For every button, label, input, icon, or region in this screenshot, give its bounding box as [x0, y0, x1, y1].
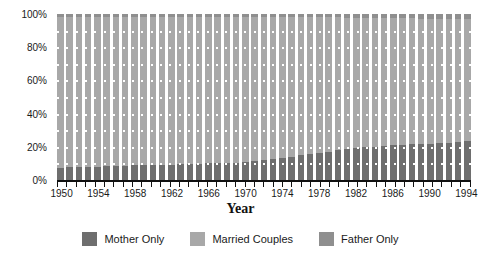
bar-column [94, 14, 101, 180]
bar-column [224, 14, 231, 180]
bar-segment [464, 19, 471, 141]
x-axis-tick-label: 1978 [308, 188, 330, 199]
legend-item[interactable]: Father Only [319, 232, 398, 246]
bar-segment [233, 17, 240, 162]
bar-segment [446, 143, 453, 180]
x-axis-tick [245, 182, 246, 187]
y-axis-tick-label: 40% [27, 108, 47, 119]
bar-segment [464, 141, 471, 180]
x-axis-title: Year [0, 201, 481, 217]
plot-area [57, 14, 471, 180]
bar-segment [390, 145, 397, 180]
bar-segment [316, 17, 323, 152]
x-axis-tick [385, 182, 386, 187]
bar-segment [224, 163, 231, 180]
x-axis-tick [432, 182, 433, 187]
x-axis-tick [460, 182, 461, 187]
legend-item[interactable]: Mother Only [82, 232, 164, 246]
x-axis-tick-label: 1974 [271, 188, 293, 199]
bar-column [372, 14, 379, 180]
bar-column [390, 14, 397, 180]
bar-segment [205, 17, 212, 163]
y-axis: 0%20%40%60%80%100% [0, 14, 52, 180]
x-axis-tick [198, 182, 199, 187]
x-axis-tick-label: 1994 [455, 188, 477, 199]
x-axis-tick [282, 182, 283, 187]
bar-segment [418, 144, 425, 180]
x-axis-tick [170, 182, 171, 187]
legend-label: Mother Only [104, 233, 164, 245]
bar-segment [205, 163, 212, 180]
bar-segment [251, 161, 258, 180]
bar-column [66, 14, 73, 180]
bar-segment [103, 166, 110, 180]
x-axis-tick [366, 182, 367, 187]
bar-column [196, 14, 203, 180]
bar-column [307, 14, 314, 180]
bar-segment [436, 19, 443, 144]
bar-segment [344, 18, 351, 149]
bar-segment [372, 18, 379, 147]
x-axis-tick [338, 182, 339, 187]
x-axis-tick-label: 1986 [382, 188, 404, 199]
bar-segment [94, 167, 101, 180]
x-axis-tick [188, 182, 189, 187]
bar-segment [418, 19, 425, 144]
legend: Mother OnlyMarried CouplesFather Only [0, 232, 481, 246]
bar-segment [279, 17, 286, 158]
bar-segment [94, 17, 101, 166]
x-axis-tick [441, 182, 442, 187]
bar-segment [242, 17, 249, 161]
y-axis-tick-label: 20% [27, 141, 47, 152]
stacked-bar-chart: 0%20%40%60%80%100% 195019541958196219661… [0, 0, 481, 265]
x-axis-tick [85, 182, 86, 187]
y-axis-tick-label: 100% [21, 9, 47, 20]
bar-segment [381, 146, 388, 180]
bar-segment [427, 144, 434, 180]
bar-segment [251, 17, 258, 161]
bar-segment [66, 167, 73, 180]
x-axis-tick [404, 182, 405, 187]
x-axis-tick-label: 1962 [161, 188, 183, 199]
bar-segment [325, 17, 332, 151]
x-axis-tick [451, 182, 452, 187]
bar-segment [140, 17, 147, 165]
x-axis-tick [263, 182, 264, 187]
bar-column [353, 14, 360, 180]
bar-column [140, 14, 147, 180]
bar-segment [113, 166, 120, 180]
bar-segment [325, 152, 332, 180]
bar-column [270, 14, 277, 180]
bar-segment [261, 17, 268, 160]
bar-segment [187, 17, 194, 164]
bar-column [168, 14, 175, 180]
legend-swatch-icon [82, 232, 97, 246]
bar-segment [279, 158, 286, 180]
bar-segment [261, 160, 268, 180]
bar-segment [455, 19, 462, 142]
bar-column [122, 14, 129, 180]
bar-segment [76, 167, 83, 180]
legend-item[interactable]: Married Couples [190, 232, 293, 246]
y-axis-tick-label: 0% [33, 175, 47, 186]
bar-segment [57, 17, 64, 168]
bar-column [233, 14, 240, 180]
bar-segment [196, 17, 203, 164]
bar-column [103, 14, 110, 180]
bar-segment [270, 159, 277, 180]
legend-swatch-icon [319, 232, 334, 246]
x-axis-tick [160, 182, 161, 187]
bar-column [177, 14, 184, 180]
bar-column [335, 14, 342, 180]
bar-segment [168, 17, 175, 165]
bar-segment [122, 166, 129, 180]
bar-column [214, 14, 221, 180]
bar-segment [427, 19, 434, 144]
bar-column [76, 14, 83, 180]
bar-segment [455, 142, 462, 180]
bar-segment [436, 143, 443, 180]
bar-column [418, 14, 425, 180]
bar-segment [446, 19, 453, 143]
bar-segment [159, 165, 166, 180]
bar-segment [353, 148, 360, 180]
